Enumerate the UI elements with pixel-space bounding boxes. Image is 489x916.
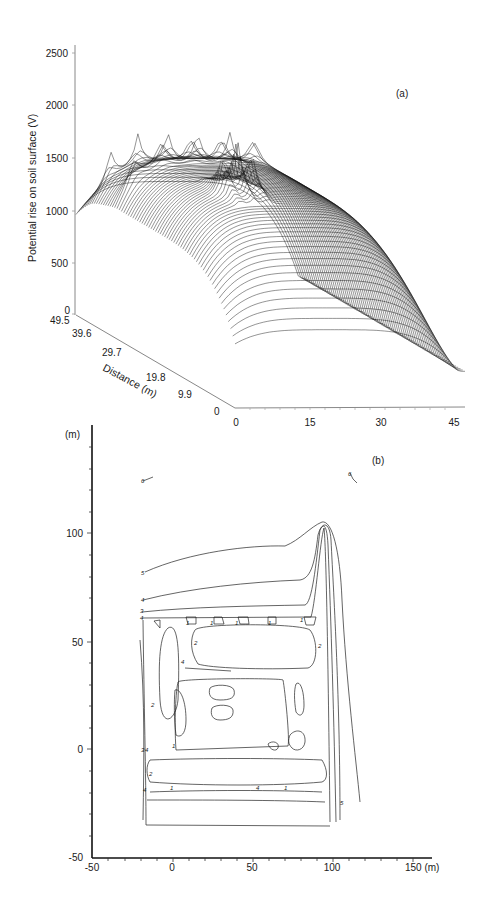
contour-label: 2	[148, 771, 153, 777]
y-tick-50: 50	[72, 637, 84, 648]
y-tick-9-9: 9.9	[178, 389, 192, 400]
y-tick-0: 0	[77, 744, 83, 755]
contour-label: 5	[141, 570, 145, 576]
contour-label: 4	[256, 785, 260, 791]
panel-b-contour-plot: (m) 100 50 0 -50 -50 0 50 100 150 (m) (b…	[0, 420, 489, 916]
contour-labels: 6 6 5 5 4 3 4 1 1 1 1 1 2 2 2 2 4 4 4 4 …	[140, 471, 352, 806]
contour-label: 4	[143, 787, 147, 793]
contour-label: 1	[284, 785, 287, 791]
x-tick-150: 150 (m)	[405, 862, 439, 873]
contour-label: 2	[317, 643, 322, 649]
x-tick-50: 50	[246, 862, 258, 873]
contour-label: 6	[141, 478, 145, 484]
z-tick-1000: 1000	[46, 206, 69, 217]
contour-label: 1	[170, 785, 173, 791]
contour-label: 2	[193, 640, 198, 646]
z-axis: 2500 2000 1500 1000 500 0 Potential rise…	[26, 45, 75, 316]
contour-label: 1	[300, 617, 303, 623]
contour-label: 2	[150, 702, 155, 708]
z-tick-2000: 2000	[46, 100, 69, 111]
contour-axes: (m) 100 50 0 -50 -50 0 50 100 150 (m)	[65, 425, 439, 873]
y-tick-100: 100	[66, 528, 83, 539]
x-tick-minus-50: -50	[85, 862, 100, 873]
contour-label: 5	[340, 800, 344, 806]
contour-lines	[140, 473, 360, 826]
z-tick-1500: 1500	[46, 153, 69, 164]
contour-label: 3	[140, 608, 144, 614]
contour-label: 4	[145, 747, 149, 753]
z-tick-500: 500	[51, 258, 68, 269]
y-tick-minus-50: -50	[69, 852, 84, 863]
y-tick-19-8: 19.8	[146, 372, 166, 383]
y-unit-label: (m)	[65, 429, 80, 440]
z-tick-2500: 2500	[46, 48, 69, 59]
x-tick-100: 100	[324, 862, 341, 873]
contour-label: 1	[268, 620, 271, 626]
contour-label: 1	[210, 620, 213, 626]
y-tick-0: 0	[214, 406, 220, 417]
y-tick-49-5: 49.5	[50, 315, 70, 326]
contour-label: 1	[186, 620, 189, 626]
y-tick-39-6: 39.6	[72, 328, 92, 339]
wireframe-surface	[76, 132, 465, 371]
x-tick-0: 0	[169, 862, 175, 873]
contour-label: 4	[181, 659, 185, 665]
y-axis-depth: 49.5 39.6 29.7 19.8 9.9 0 Distance (m)	[50, 315, 235, 417]
panel-label-b: (b)	[372, 455, 384, 466]
contour-label: 1	[172, 743, 175, 749]
panel-label-a: (a)	[396, 88, 408, 99]
y-tick-29-7: 29.7	[102, 347, 122, 358]
panel-a-surface-plot: 2500 2000 1500 1000 500 0 Potential rise…	[0, 0, 489, 440]
contour-label: 1	[235, 620, 238, 626]
z-axis-title: Potential rise on soil surface (V)	[26, 114, 38, 262]
